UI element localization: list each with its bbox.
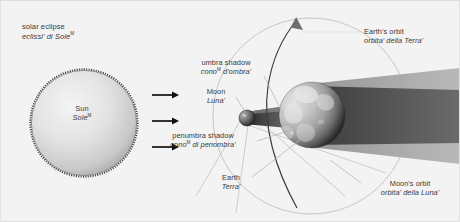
diagram-title: solar eclipse eclissi' di SoleM bbox=[22, 22, 74, 41]
label-sun-english: Sun bbox=[60, 104, 104, 113]
label-penumbra-shadow: penumbra shadow conoM di penombra' bbox=[150, 131, 256, 150]
label-earth-orbit: Earth's orbit orbita' della Terra' bbox=[364, 27, 456, 46]
label-moon-orbit: Moon's orbit orbita' della Luna' bbox=[362, 179, 458, 198]
label-earth: Earth Terra' bbox=[213, 173, 249, 192]
sun-body bbox=[30, 69, 137, 176]
label-sun: Sun SoleM bbox=[60, 104, 104, 123]
label-earth-english: Earth bbox=[213, 173, 249, 182]
label-umbra-english: umbra shadow bbox=[186, 58, 266, 67]
title-italian: eclissi' di SoleM bbox=[22, 31, 74, 41]
label-penumbra-english: penumbra shadow bbox=[150, 131, 256, 140]
label-moon-orbit-italian: orbita' della Luna' bbox=[362, 188, 458, 198]
solar-eclipse-diagram: solar eclipse eclissi' di SoleM Sun Sole… bbox=[0, 0, 460, 222]
label-moon: Moon Luna' bbox=[196, 87, 236, 106]
title-english: solar eclipse bbox=[22, 22, 74, 31]
leader-earth bbox=[252, 140, 300, 177]
label-sun-italian: SoleM bbox=[60, 113, 104, 123]
label-moon-orbit-english: Moon's orbit bbox=[362, 179, 458, 188]
label-moon-english: Moon bbox=[196, 87, 236, 96]
label-earth-orbit-italian: orbita' della Terra' bbox=[364, 36, 456, 46]
label-umbra-shadow: umbra shadow conoM d'ombra' bbox=[186, 58, 266, 77]
label-penumbra-italian: conoM di penombra' bbox=[150, 140, 256, 150]
moon-body bbox=[239, 110, 255, 126]
label-umbra-italian: conoM d'ombra' bbox=[186, 67, 266, 77]
label-earth-italian: Terra' bbox=[213, 182, 249, 192]
leader-moon bbox=[236, 97, 245, 112]
leader-moon-orbit bbox=[330, 160, 361, 183]
label-moon-italian: Luna' bbox=[196, 96, 236, 106]
label-earth-orbit-english: Earth's orbit bbox=[364, 27, 456, 36]
earth-body bbox=[279, 82, 345, 148]
